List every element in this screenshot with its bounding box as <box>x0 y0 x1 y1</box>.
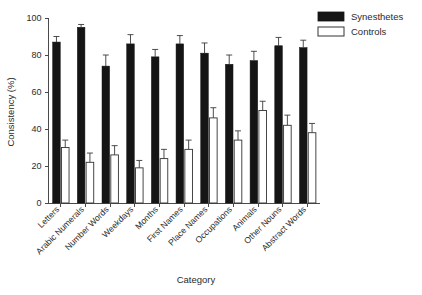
bar-synesthetes <box>77 27 85 203</box>
bar-synesthetes <box>102 66 110 203</box>
bar-controls <box>259 111 267 204</box>
y-tick-label: 80 <box>31 50 41 60</box>
bar-controls <box>135 168 143 203</box>
bar-synesthetes <box>127 44 135 203</box>
y-tick-label: 100 <box>26 13 41 23</box>
y-axis-title: Consistency (%) <box>5 77 16 146</box>
bar-controls <box>160 159 168 203</box>
bar-controls <box>185 149 193 203</box>
bar-controls <box>86 162 94 203</box>
y-tick-label: 40 <box>31 124 41 134</box>
bar-synesthetes <box>275 46 283 203</box>
bar-synesthetes <box>53 42 61 203</box>
legend: Synesthetes Controls <box>318 11 404 37</box>
legend-label-controls: Controls <box>351 26 387 37</box>
bar-synesthetes <box>250 61 258 203</box>
bar-group <box>53 24 316 203</box>
legend-swatch-synesthetes <box>318 12 344 21</box>
bar-controls <box>308 133 316 203</box>
x-category-label: Abstract Words <box>260 204 309 253</box>
bar-synesthetes <box>299 48 307 203</box>
bar-controls <box>210 118 218 203</box>
bar-synesthetes <box>151 57 159 203</box>
chart-figure: Consistency (%) Category 020406080100 Le… <box>0 0 422 295</box>
bar-controls <box>61 148 69 204</box>
x-axis-title: Category <box>177 274 216 285</box>
bar-controls <box>284 125 292 203</box>
x-axis-category-labels: LettersArabic NumeralsNumber WordsWeekda… <box>34 203 308 256</box>
y-tick-label: 20 <box>31 161 41 171</box>
legend-label-synesthetes: Synesthetes <box>351 11 404 22</box>
bar-synesthetes <box>225 64 233 203</box>
bar-synesthetes <box>201 53 209 203</box>
bar-controls <box>234 140 242 203</box>
legend-swatch-controls <box>318 27 344 36</box>
bar-synesthetes <box>176 44 184 203</box>
bar-chart-svg: Consistency (%) Category 020406080100 Le… <box>0 0 422 295</box>
y-axis-ticks: 020406080100 <box>26 13 48 208</box>
y-tick-label: 0 <box>36 198 41 208</box>
y-tick-label: 60 <box>31 87 41 97</box>
bar-controls <box>111 155 119 203</box>
